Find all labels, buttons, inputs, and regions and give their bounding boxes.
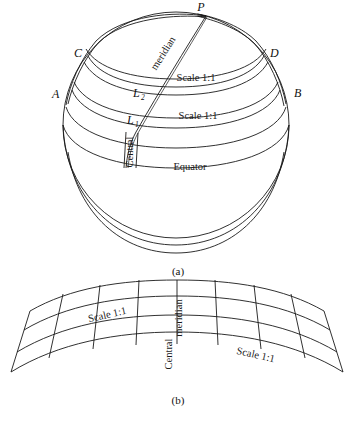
central-label-b: Central <box>163 338 174 369</box>
central-meridian-segment-2 <box>136 133 138 168</box>
point-label-A: A <box>51 87 60 101</box>
parallel-L1 <box>72 90 280 128</box>
point-label-D: D <box>269 46 279 60</box>
parallel-L1-lower <box>66 107 286 148</box>
sphere-lower-limb-arc <box>63 125 289 245</box>
caption-panel-b: (b) <box>172 394 185 407</box>
meridian-label-a: meridian <box>148 34 178 72</box>
panel-a-globe: P C D A B L 2 L 1 meridian Scale 1:1 Sca… <box>51 0 302 278</box>
central-label-a: Central <box>124 136 135 167</box>
sphere-outline <box>63 12 289 238</box>
point-label-L2-sub: 2 <box>141 93 145 102</box>
point-label-B: B <box>294 86 302 100</box>
point-label-P: P <box>196 0 205 14</box>
point-label-L1-sub: 1 <box>135 120 139 129</box>
fan-radial-6 <box>215 280 218 345</box>
point-label-L2: L <box>132 86 140 100</box>
scale-label-left-b: Scale 1:1 <box>87 305 127 324</box>
panel-b-fan: Scale 1:1 Scale 1:1 Central meridian (b) <box>11 280 343 407</box>
scale-label-right-b: Scale 1:1 <box>236 345 276 364</box>
meridian-label-b: meridian <box>173 299 184 337</box>
fan-radial-8 <box>291 294 305 358</box>
point-label-L1: L <box>126 113 134 127</box>
fan-radial-4 <box>136 280 139 345</box>
fan-radial-2 <box>49 294 63 358</box>
equator-label: Equator <box>173 161 207 172</box>
figure-svg: P C D A B L 2 L 1 meridian Scale 1:1 Sca… <box>0 0 352 422</box>
caption-panel-a: (a) <box>172 265 185 278</box>
scale-label-upper-a: Scale 1:1 <box>177 72 216 83</box>
point-label-C: C <box>74 46 83 60</box>
scale-label-lower-a: Scale 1:1 <box>179 110 218 121</box>
figure-root: P C D A B L 2 L 1 meridian Scale 1:1 Sca… <box>0 0 352 422</box>
